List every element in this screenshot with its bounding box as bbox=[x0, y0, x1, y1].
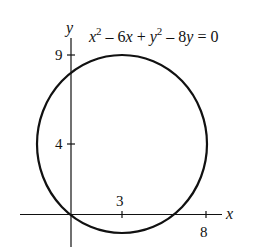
equation-label: x2 – 6x + y2 – 8y = 0 bbox=[88, 25, 219, 46]
y-axis-label: y bbox=[64, 19, 74, 37]
y-tick-label-4: 4 bbox=[55, 136, 63, 152]
y-tick-label-9: 9 bbox=[55, 47, 63, 63]
x-tick-label-8: 8 bbox=[200, 224, 208, 240]
x-tick-label-3: 3 bbox=[116, 193, 124, 209]
x-axis-label: x bbox=[225, 205, 233, 222]
graph: 3 8 9 4 x y x2 – 6x + y2 – 8y = 0 bbox=[0, 0, 268, 252]
